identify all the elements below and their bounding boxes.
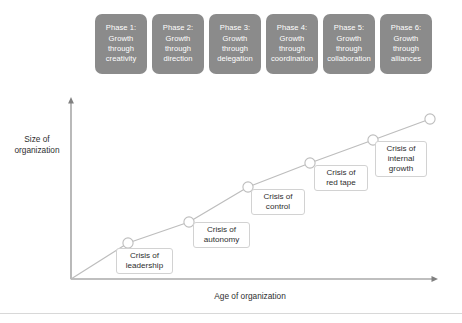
crisis-box-autonomy: Crisis of autonomy (193, 222, 250, 248)
phase-box-4: Phase 4: Growth through coordination (266, 14, 318, 74)
crisis-box-leadership: Crisis of leadership (116, 248, 173, 274)
x-axis-arrowhead (432, 276, 439, 282)
y-axis-arrowhead (68, 97, 74, 104)
bottom-divider (0, 313, 462, 314)
curve-marker-1 (123, 238, 133, 248)
phase-box-2: Phase 2: Growth through direction (152, 14, 204, 74)
phase-box-5: Phase 5: Growth through collaboration (323, 14, 375, 74)
x-axis-label: Age of organization (185, 291, 315, 302)
phase-box-3: Phase 3: Growth through delegation (209, 14, 261, 74)
phase-box-4-label: Phase 4: Growth through coordination (271, 23, 313, 65)
greiner-growth-diagram: Phase 1: Growth through creativity Phase… (0, 0, 462, 323)
phase-box-1: Phase 1: Growth through creativity (95, 14, 147, 74)
crisis-box-autonomy-label: Crisis of autonomy (204, 225, 240, 245)
y-axis-label: Size of organization (8, 134, 66, 155)
crisis-box-leadership-label: Crisis of leadership (126, 251, 163, 271)
crisis-box-internal-growth-label: Crisis of internal growth (386, 144, 415, 175)
phase-box-1-label: Phase 1: Growth through creativity (106, 23, 136, 65)
phase-box-6: Phase 6: Growth through alliances (380, 14, 432, 74)
crisis-box-red-tape: Crisis of red tape (314, 165, 368, 191)
crisis-box-control-label: Crisis of control (263, 192, 292, 212)
phase-box-2-label: Phase 2: Growth through direction (163, 23, 193, 65)
phase-box-6-label: Phase 6: Growth through alliances (391, 23, 421, 65)
phase-box-5-label: Phase 5: Growth through collaboration (327, 23, 371, 65)
crisis-box-internal-growth: Crisis of internal growth (375, 141, 427, 177)
phase-box-3-label: Phase 3: Growth through delegation (217, 23, 253, 65)
curve-marker-6 (425, 114, 435, 124)
crisis-box-red-tape-label: Crisis of red tape (326, 168, 356, 188)
crisis-box-control: Crisis of control (251, 189, 305, 215)
